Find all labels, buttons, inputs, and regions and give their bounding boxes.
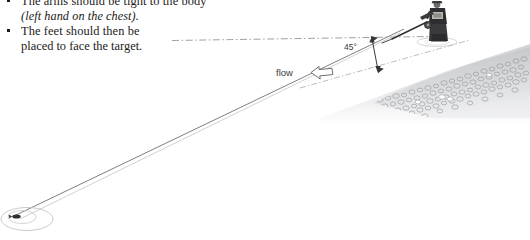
cast-line-secondary [20, 33, 400, 219]
lure-marker [9, 214, 21, 218]
target-ellipse [1, 208, 53, 231]
figure-page: The arms should be tight to the body (le… [0, 0, 530, 240]
double-headed-angle-arrow [372, 39, 378, 70]
angle-label: 45° [344, 42, 357, 52]
angler-figure [382, 1, 457, 47]
casting-diagram: 45° flow [0, 0, 530, 240]
flow-label: flow [276, 67, 293, 78]
